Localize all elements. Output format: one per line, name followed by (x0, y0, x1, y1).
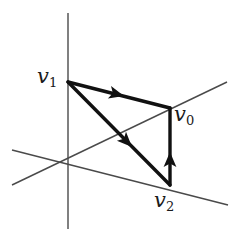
horizontal-axis-down-right (12, 150, 228, 205)
edge-v1-to-v2 (68, 82, 170, 185)
axes-group (12, 13, 228, 229)
vertex-label-v2: v2 (154, 190, 174, 211)
vertex-label-v0: v0 (174, 104, 194, 125)
vertex-label-v0-subscript: 0 (186, 113, 194, 128)
vertex-label-v1-subscript: 1 (49, 75, 57, 90)
triangle-edges-group (68, 82, 170, 185)
figure-canvas: v1 v0 v2 (0, 0, 238, 235)
vertex-label-v1-base: v (37, 64, 49, 88)
triangle-vector-diagram (0, 0, 238, 235)
vertex-label-v0-base: v (174, 102, 186, 126)
vertex-label-v1: v1 (37, 66, 57, 87)
vertex-label-v2-subscript: 2 (166, 199, 174, 214)
vertex-label-v2-base: v (154, 188, 166, 212)
